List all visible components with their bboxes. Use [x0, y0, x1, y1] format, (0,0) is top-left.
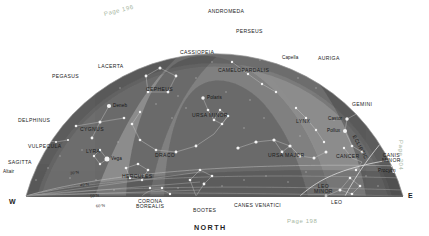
- sky-dome-graphic: [0, 0, 429, 236]
- star-chart: Page 196 Page 204 Page 198 W E NORTH ECL…: [0, 0, 429, 236]
